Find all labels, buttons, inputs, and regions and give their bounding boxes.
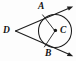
point-label-d: D bbox=[3, 26, 10, 36]
point-label-b: B bbox=[45, 49, 51, 59]
point-label-c: C bbox=[60, 26, 66, 36]
point-label-a: A bbox=[38, 2, 44, 12]
geometry-figure: A B C D bbox=[0, 0, 76, 61]
center-point-dot bbox=[54, 29, 57, 32]
radius-segment-CB bbox=[44, 31, 55, 47]
arrowhead-ray-A-icon bbox=[67, 6, 73, 10]
